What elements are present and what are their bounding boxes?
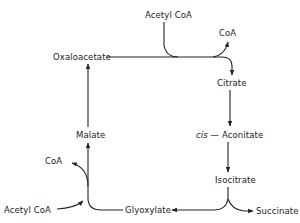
coa-top-label: CoA — [219, 28, 236, 38]
coa-bottom-label: CoA — [45, 156, 62, 166]
arrow-glyoxylate-to-malate — [88, 143, 123, 210]
oxaloacetate-label: Oxaloacetate — [53, 52, 111, 62]
aconitate-text: — Aconitate — [211, 130, 264, 140]
arrow-isocitrate-to-succinate — [228, 199, 253, 211]
glyoxylate-label: Glyoxylate — [125, 205, 171, 215]
succinate-label: Succinate — [256, 206, 299, 216]
isocitrate-label: Isocitrate — [215, 175, 256, 185]
malate-label: Malate — [76, 130, 105, 140]
cis-prefix: cis — [196, 130, 208, 140]
arrow-acetylcoa-bottom-in — [57, 201, 83, 209]
arrow-to-coa-top — [213, 42, 228, 57]
arrow-acetylcoa-top-in — [164, 22, 178, 57]
pathway-arrows — [0, 0, 300, 223]
arrow-oxaloacetate-to-citrate — [107, 57, 232, 75]
arrow-to-coa-bottom — [72, 163, 88, 186]
cis-aconitate-label: cis — Aconitate — [196, 130, 263, 140]
arrow-isocitrate-to-glyoxylate — [172, 187, 228, 210]
acetyl-coa-bottom-label: Acetyl CoA — [4, 205, 51, 215]
acetyl-coa-top-label: Acetyl CoA — [145, 10, 192, 20]
citrate-label: Citrate — [217, 78, 247, 88]
